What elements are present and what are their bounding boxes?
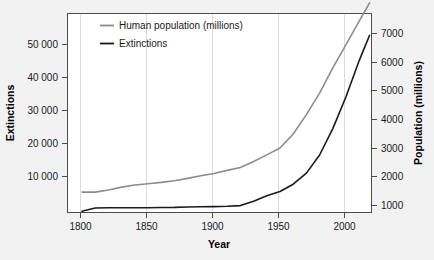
left-tick-label-30000: 30 000 — [27, 105, 58, 116]
extinctions-population-chart: 50 000 40 000 30 000 20 000 10 000 7000 … — [0, 0, 434, 260]
right-tick-label-5000: 5000 — [381, 85, 404, 96]
y-axis-title-left: Extinctions — [4, 85, 16, 142]
left-tick-label-10000: 10 000 — [27, 171, 58, 182]
legend-label-population: Human population (millions) — [119, 20, 243, 31]
legend-label-extinctions: Extinctions — [119, 38, 167, 49]
right-tick-label-4000: 4000 — [381, 114, 404, 125]
right-tick-label-3000: 3000 — [381, 143, 404, 154]
x-tick-label-2000: 2000 — [333, 221, 356, 232]
x-tick-label-1900: 1900 — [201, 221, 224, 232]
x-tick-label-1850: 1850 — [135, 221, 158, 232]
x-axis-title: Year — [208, 238, 230, 250]
right-tick-label-7000: 7000 — [381, 28, 404, 39]
left-tick-label-50000: 50 000 — [27, 39, 58, 50]
right-tick-label-6000: 6000 — [381, 57, 404, 68]
right-tick-label-2000: 2000 — [381, 171, 404, 182]
chart-screenshot: 50 000 40 000 30 000 20 000 10 000 7000 … — [0, 0, 434, 260]
left-tick-label-40000: 40 000 — [27, 72, 58, 83]
x-tick-label-1800: 1800 — [69, 221, 92, 232]
right-tick-label-1000: 1000 — [381, 200, 404, 211]
y-axis-title-right: Population (millions) — [412, 61, 424, 165]
left-tick-label-20000: 20 000 — [27, 138, 58, 149]
x-tick-label-1950: 1950 — [267, 221, 290, 232]
